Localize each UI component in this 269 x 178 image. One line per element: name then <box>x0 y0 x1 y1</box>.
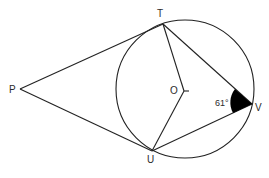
label-t: T <box>157 8 163 19</box>
label-u: U <box>147 154 154 165</box>
label-p: P <box>9 84 16 95</box>
radius-ou <box>152 91 184 151</box>
label-v: V <box>255 102 262 113</box>
label-o: O <box>170 85 178 96</box>
tangent-pu <box>20 89 152 151</box>
circle <box>116 20 254 158</box>
tangent-pt <box>20 24 163 89</box>
geometry-diagram: T P O V U 61° <box>0 0 269 178</box>
angle-label-v: 61° <box>215 98 229 108</box>
